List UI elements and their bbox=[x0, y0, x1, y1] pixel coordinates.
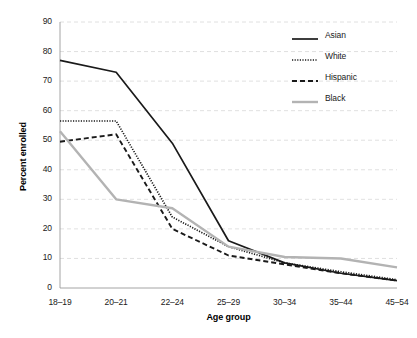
legend-line-dotted-dark-icon bbox=[292, 51, 318, 61]
y-tick-label: 20 bbox=[26, 223, 52, 233]
legend-line-solid-gray-icon bbox=[292, 93, 318, 103]
legend-item-asian[interactable]: Asian bbox=[292, 24, 404, 45]
x-tick-label: 20–21 bbox=[92, 297, 140, 307]
legend-item-black[interactable]: Black bbox=[292, 87, 404, 108]
legend-item-hispanic[interactable]: Hispanic bbox=[292, 66, 404, 87]
legend-line-solid-dark-icon bbox=[292, 30, 318, 40]
x-tick-label: 22–24 bbox=[148, 297, 196, 307]
y-tick-label: 40 bbox=[26, 164, 52, 174]
x-tick-label: 35–44 bbox=[317, 297, 365, 307]
y-tick-label: 50 bbox=[26, 134, 52, 144]
chart-container: 9080706050403020100 18–1920–2122–2425–29… bbox=[0, 0, 417, 338]
x-tick-label: 45–54 bbox=[373, 297, 417, 307]
legend-label: White bbox=[325, 51, 346, 61]
x-axis-title: Age group bbox=[169, 312, 289, 322]
y-tick-label: 70 bbox=[26, 75, 52, 85]
x-tick-label: 18–19 bbox=[36, 297, 84, 307]
y-tick-label: 90 bbox=[26, 16, 52, 26]
x-tick-label: 25–29 bbox=[205, 297, 253, 307]
y-tick-label: 10 bbox=[26, 252, 52, 262]
chart-legend: AsianWhiteHispanicBlack bbox=[292, 24, 404, 108]
y-tick-label: 30 bbox=[26, 193, 52, 203]
y-tick-label: 0 bbox=[26, 282, 52, 292]
y-axis-title: Percent enrolled bbox=[18, 122, 28, 191]
legend-label: Asian bbox=[325, 30, 346, 40]
y-tick-label: 60 bbox=[26, 105, 52, 115]
legend-label: Hispanic bbox=[325, 72, 357, 82]
y-tick-label: 80 bbox=[26, 46, 52, 56]
x-tick-label: 30–34 bbox=[261, 297, 309, 307]
legend-line-dashed-dark-icon bbox=[292, 72, 318, 82]
legend-label: Black bbox=[325, 93, 345, 103]
legend-item-white[interactable]: White bbox=[292, 45, 404, 66]
